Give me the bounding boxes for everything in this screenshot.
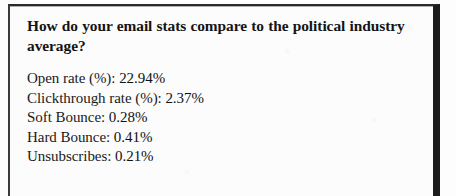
callout-heading: How do your email stats compare to the p… xyxy=(27,16,419,56)
stat-label-unsubscribes: Unsubscribes: xyxy=(27,148,111,164)
stat-row-clickthrough-rate: Clickthrough rate (%): 2.37% xyxy=(27,89,419,109)
stat-row-hard-bounce: Hard Bounce: 0.41% xyxy=(27,128,419,148)
stat-row-unsubscribes: Unsubscribes: 0.21% xyxy=(27,147,419,167)
stat-value-soft-bounce: 0.28% xyxy=(109,109,148,125)
stat-row-soft-bounce: Soft Bounce: 0.28% xyxy=(27,108,419,128)
stat-label-clickthrough-rate: Clickthrough rate (%): xyxy=(27,90,162,106)
stat-value-unsubscribes: 0.21% xyxy=(115,148,154,164)
stat-row-open-rate: Open rate (%): 22.94% xyxy=(27,69,419,89)
callout-box: How do your email stats compare to the p… xyxy=(8,4,440,196)
stat-label-soft-bounce: Soft Bounce: xyxy=(27,109,105,125)
callout-content: How do your email stats compare to the p… xyxy=(10,6,433,167)
stat-value-clickthrough-rate: 2.37% xyxy=(165,90,204,106)
stat-label-hard-bounce: Hard Bounce: xyxy=(27,129,110,145)
scanned-page: How do your email stats compare to the p… xyxy=(0,0,456,196)
stat-label-open-rate: Open rate (%): xyxy=(27,70,115,86)
stat-value-hard-bounce: 0.41% xyxy=(114,129,153,145)
email-stats-list: Open rate (%): 22.94% Clickthrough rate … xyxy=(27,69,419,167)
stat-value-open-rate: 22.94% xyxy=(119,70,165,86)
